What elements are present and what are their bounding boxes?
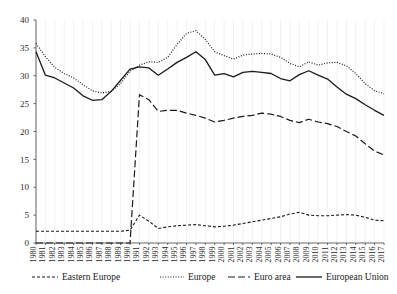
x-tick-label: 1980 (29, 247, 38, 263)
x-tick-label: 1992 (142, 247, 151, 263)
x-tick-label: 1993 (151, 247, 160, 263)
x-tick-label: 1998 (198, 247, 207, 263)
x-tick-label: 1987 (95, 247, 104, 263)
gridlines-group (36, 20, 384, 243)
x-tick-label: 1981 (38, 247, 47, 263)
x-tick-label: 1997 (189, 247, 198, 263)
line-chart: 0510152025303540 19801981198219831984198… (0, 0, 397, 294)
x-tick-label: 1988 (104, 247, 113, 263)
x-tick-label: 1995 (170, 247, 179, 263)
y-tick-label: 10 (20, 182, 30, 192)
x-tick-label: 1999 (208, 247, 217, 263)
series-line-eastern-europe (36, 212, 384, 231)
x-axis-tick-labels: 1980198119821983198419851986198719881989… (29, 243, 386, 263)
x-tick-label: 1986 (85, 247, 94, 263)
x-tick-label: 2005 (264, 247, 273, 263)
x-tick-label: 1991 (132, 247, 141, 263)
chart-legend: Eastern EuropeEuropeEuro areaEuropean Un… (32, 272, 389, 282)
y-tick-label: 15 (20, 155, 30, 165)
y-axis-tick-labels: 0510152025303540 (20, 15, 36, 248)
x-tick-label: 2007 (283, 247, 292, 263)
x-tick-label: 2015 (358, 247, 367, 263)
x-tick-label: 1982 (48, 247, 57, 263)
x-tick-label: 1996 (179, 247, 188, 263)
x-tick-label: 2017 (377, 247, 386, 263)
x-tick-label: 2008 (292, 247, 301, 263)
x-tick-label: 2012 (330, 247, 339, 263)
y-tick-label: 30 (20, 71, 30, 81)
y-tick-label: 35 (20, 43, 30, 53)
x-tick-label: 2001 (227, 247, 236, 263)
x-tick-label: 1994 (161, 247, 170, 263)
x-tick-label: 1990 (123, 247, 132, 263)
x-tick-label: 2011 (321, 247, 330, 263)
series-line-european-union (36, 52, 384, 116)
x-tick-label: 2010 (311, 247, 320, 263)
x-tick-label: 1984 (67, 247, 76, 263)
x-tick-label: 2009 (302, 247, 311, 263)
y-tick-label: 20 (20, 127, 30, 137)
x-tick-label: 2004 (255, 247, 264, 263)
y-tick-label: 40 (20, 15, 30, 25)
x-tick-label: 2003 (245, 247, 254, 263)
series-line-euro-area (36, 95, 384, 243)
legend-label-euro-area: Euro area (254, 272, 291, 282)
chart-container: 0510152025303540 19801981198219831984198… (0, 0, 397, 294)
x-tick-label: 2016 (368, 247, 377, 263)
legend-label-europe: Europe (188, 272, 215, 282)
x-tick-label: 1983 (57, 247, 66, 263)
x-tick-label: 1989 (114, 247, 123, 263)
x-tick-label: 1985 (76, 247, 85, 263)
legend-label-eastern-europe: Eastern Europe (62, 272, 120, 282)
x-tick-label: 2014 (349, 247, 358, 263)
y-tick-label: 5 (25, 210, 30, 220)
x-tick-label: 2013 (339, 247, 348, 263)
series-line-europe (36, 31, 384, 94)
x-tick-label: 2002 (236, 246, 245, 262)
series-lines-group (36, 31, 384, 243)
x-tick-label: 2006 (274, 247, 283, 263)
x-tick-label: 2000 (217, 247, 226, 263)
legend-label-european-union: European Union (326, 272, 389, 282)
axes-group (36, 20, 384, 243)
y-tick-label: 25 (20, 99, 30, 109)
